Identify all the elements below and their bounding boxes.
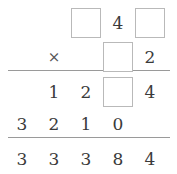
digit-multiplicand-col3: 4	[102, 8, 134, 38]
digit-partial-product-2-col3: 0	[102, 109, 134, 139]
digit-partial-product-1-col1: 1	[38, 77, 70, 107]
digit-partial-product-1-col2: 2	[70, 77, 102, 107]
digit-partial-product-2-col2: 1	[70, 109, 102, 139]
blank-input-box-partial-product-1-col3[interactable]	[103, 77, 133, 107]
blank-input-box-multiplier-col3[interactable]	[103, 42, 133, 72]
digit-total-col2: 3	[70, 144, 102, 174]
digit-partial-product-1-col4: 4	[134, 77, 166, 107]
digit-multiplier-col4: 2	[134, 42, 166, 72]
digit-total-col4: 4	[134, 144, 166, 174]
digit-total-col3: 8	[102, 144, 134, 174]
blank-input-box-multiplicand-col2[interactable]	[71, 8, 101, 38]
multiplication-operator: ×	[38, 42, 70, 72]
digit-partial-product-2-col0: 3	[6, 109, 38, 139]
digit-total-col1: 3	[38, 144, 70, 174]
digit-total-col0: 3	[6, 144, 38, 174]
long-multiplication-worksheet: 4×2124321033384	[0, 0, 177, 174]
digit-partial-product-2-col1: 2	[38, 109, 70, 139]
blank-input-box-multiplicand-col4[interactable]	[135, 8, 165, 38]
